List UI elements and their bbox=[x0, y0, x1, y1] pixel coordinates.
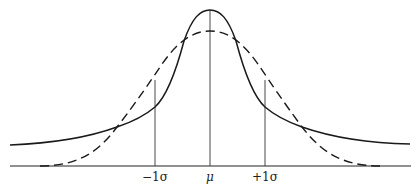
mu-label: μ bbox=[206, 170, 214, 184]
minus-sigma-label: −1σ bbox=[142, 170, 168, 184]
plus-sigma-label: +1σ bbox=[252, 170, 278, 184]
distribution-diagram bbox=[0, 0, 418, 192]
